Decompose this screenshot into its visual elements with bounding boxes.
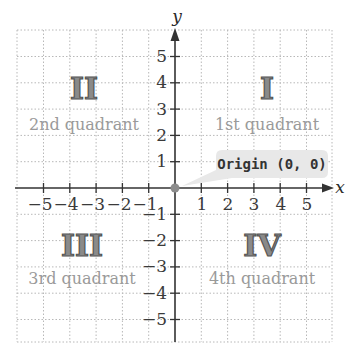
- y-tick-label: −5: [142, 309, 167, 329]
- y-tick-label: 4: [156, 72, 167, 92]
- y-axis-label: y: [171, 6, 182, 26]
- quadrant-1-label: 1st quadrant: [215, 115, 320, 134]
- quadrant-2-numeral: II: [70, 71, 98, 106]
- x-tick-label: 1: [197, 194, 208, 214]
- quadrant-4-numeral: IV: [243, 228, 281, 263]
- quadrant-2-label: 2nd quadrant: [29, 115, 140, 134]
- quadrant-1-numeral: I: [260, 71, 274, 106]
- y-tick-label: −2: [142, 230, 167, 250]
- x-tick-label: −3: [80, 194, 105, 214]
- coordinate-plane: II 2nd quadrant I 1st quadrant III 3rd q…: [0, 0, 350, 346]
- x-tick-labels: −5 −4 −3 −2 −1 1 2 3 4 5: [27, 194, 312, 214]
- y-tick-label: −3: [142, 256, 167, 276]
- y-tick-label: −1: [142, 204, 167, 224]
- quadrant-3: III 3rd quadrant: [28, 228, 136, 288]
- x-tick-label: 4: [276, 194, 287, 214]
- x-tick-label: 2: [223, 194, 234, 214]
- y-tick-label: 1: [156, 151, 167, 171]
- x-tick-label: −5: [27, 194, 52, 214]
- y-tick-label: 3: [156, 99, 167, 119]
- quadrant-4-label: 4th quadrant: [209, 269, 316, 288]
- x-tick-label: 3: [249, 194, 260, 214]
- origin-callout-text: Origin (0, 0): [217, 156, 327, 172]
- origin-point-icon: [171, 184, 180, 193]
- quadrant-1: I 1st quadrant: [215, 71, 320, 134]
- x-tick-label: −4: [53, 194, 78, 214]
- y-tick-label: 5: [156, 46, 167, 66]
- x-tick-label: 5: [302, 194, 313, 214]
- y-tick-label: −4: [142, 283, 167, 303]
- quadrant-3-label: 3rd quadrant: [28, 269, 136, 288]
- quadrant-3-numeral: III: [61, 228, 103, 263]
- x-axis-label: x: [335, 177, 345, 197]
- quadrant-4: IV 4th quadrant: [209, 228, 316, 288]
- y-tick-label: 2: [156, 125, 167, 145]
- x-tick-label: −2: [106, 194, 131, 214]
- quadrant-2: II 2nd quadrant: [29, 71, 140, 134]
